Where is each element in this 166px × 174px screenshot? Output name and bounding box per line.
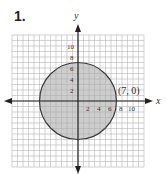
- x-tick-4: 4: [97, 105, 101, 113]
- coordinate-plane: y x 2 4 6 8 10 2 4 6 8 10 (7, 0): [0, 0, 166, 174]
- y-tick-4: 4: [70, 76, 74, 84]
- y-tick-2: 2: [70, 87, 74, 95]
- y-axis-up-arrow-icon: [75, 24, 81, 32]
- x-axis-right-arrow-icon: [145, 98, 153, 104]
- point-annotation: (7, 0): [118, 85, 140, 97]
- x-axis-label: x: [155, 95, 161, 106]
- x-axis-left-arrow-icon: [4, 98, 12, 104]
- y-axis-label: y: [73, 10, 79, 21]
- x-tick-6: 6: [108, 105, 112, 113]
- y-axis-down-arrow-icon: [75, 166, 81, 174]
- x-tick-8: 8: [119, 105, 123, 113]
- x-tick-10: 10: [128, 105, 136, 113]
- y-tick-8: 8: [70, 54, 74, 62]
- x-tick-2: 2: [86, 105, 90, 113]
- y-tick-6: 6: [70, 65, 74, 73]
- y-tick-10: 10: [67, 43, 75, 51]
